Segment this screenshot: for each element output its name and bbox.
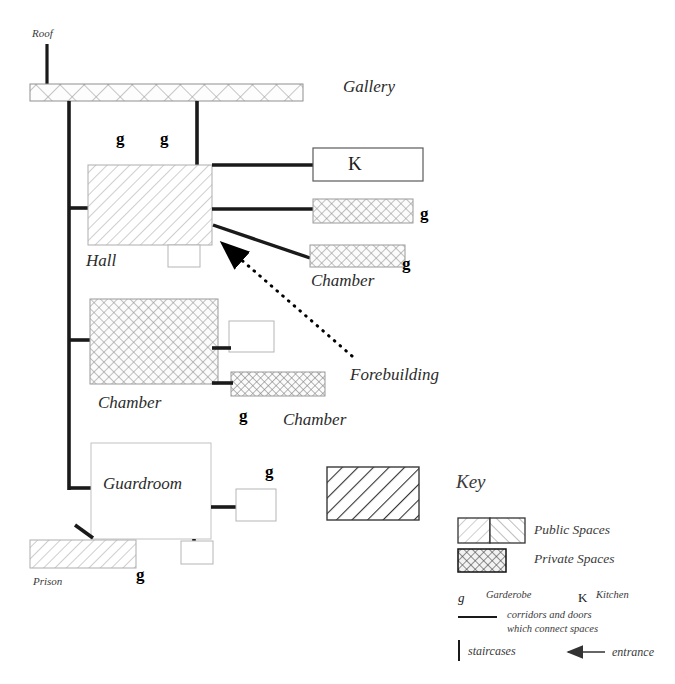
garderobe-mark-chamber-upper-1: g [420,205,429,222]
label-roof: Roof [32,28,53,39]
guardroom-garderobe-box [236,489,276,521]
castle-plan-diagram: Roof Gallery g g K g g Hall Chamber Fore… [0,0,675,684]
label-gallery: Gallery [343,78,395,95]
forebuilding-box [327,467,419,520]
label-chamber-upper-right: Chamber [311,272,374,289]
garderobe-mark-hall-left: g [116,130,125,147]
label-prison: Prison [33,576,62,587]
key-label-private-spaces: Private Spaces [534,552,615,566]
garderobe-mark-chamber-upper-2: g [402,255,411,272]
key-swatch-private [458,549,506,572]
key-swatch-public-right [490,518,525,543]
diagram-canvas [0,0,675,684]
key-label-public-spaces: Public Spaces [534,523,610,537]
garderobe-mark-chamber-mid: g [239,407,248,424]
room-prison [30,540,136,568]
garderobe-mark-hall-right: g [160,130,169,147]
guardroom-lower-box [181,541,213,564]
label-guardroom: Guardroom [103,475,182,492]
corridor-hall-to-chamber-upper-2 [213,225,310,258]
label-forebuilding: Forebuilding [350,366,439,383]
key-symbol-garderobe: g [458,590,465,606]
key-label-corridors-line2: which connect spaces [507,624,598,635]
label-hall: Hall [86,252,116,269]
garderobe-mark-guardroom: g [265,463,274,480]
key-label-kitchen: Kitchen [596,590,629,601]
room-chamber-mid-left [90,299,218,384]
label-chamber-mid-left: Chamber [98,394,161,411]
room-chamber-upper-2 [310,245,405,267]
corridor-guardroom-to-prison [75,525,93,538]
garderobe-mark-prison: g [136,566,145,583]
label-chamber-mid-right: Chamber [283,411,346,428]
room-chamber-upper-1 [313,199,413,223]
room-chamber-mid-right [231,372,325,396]
hall-garderobe-box [168,245,200,267]
chamber-mid-staircase-box [229,321,274,352]
key-label-corridors-line1: corridors and doors [507,610,592,621]
gallery-bar [30,84,303,101]
key-label-staircases: staircases [468,645,516,657]
key-label-garderobe: Garderobe [486,590,531,601]
key-swatch-public-left [458,518,490,543]
room-kitchen [313,148,423,181]
kitchen-mark-K: K [348,154,362,173]
key-label-entrance: entrance [612,646,654,658]
key-title: Key [456,472,486,491]
room-hall [88,165,212,245]
key-symbol-kitchen: K [578,590,587,606]
